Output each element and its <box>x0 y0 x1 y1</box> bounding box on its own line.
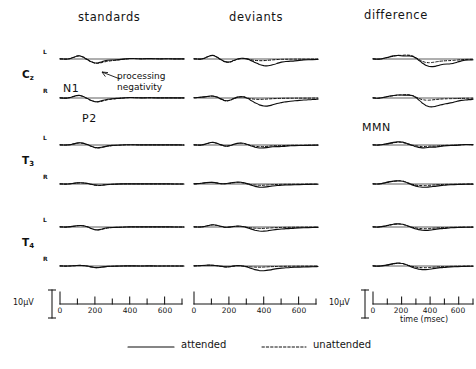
waveform-trace-attended <box>60 95 184 101</box>
waveform-trace-unattended <box>373 95 473 101</box>
waveform-panel <box>60 183 184 186</box>
waveform-panel <box>373 181 473 188</box>
waveform-traces-layer <box>0 0 476 369</box>
waveform-panel <box>194 55 318 65</box>
waveform-trace-unattended <box>60 56 184 63</box>
waveform-panel <box>373 55 473 67</box>
waveform-panel <box>60 56 184 64</box>
waveform-trace-unattended <box>373 142 473 146</box>
waveform-panel <box>194 265 318 271</box>
waveform-panel <box>194 182 318 187</box>
waveform-trace-unattended <box>60 226 184 230</box>
waveform-panel <box>373 224 473 231</box>
waveform-trace-attended <box>60 225 184 229</box>
waveform-panel <box>60 265 184 267</box>
waveform-trace-unattended <box>60 265 184 267</box>
waveform-panel <box>194 142 318 148</box>
waveform-panel <box>60 143 184 148</box>
waveform-panel <box>373 142 473 148</box>
waveform-panel <box>60 95 184 102</box>
waveform-panel <box>60 225 184 230</box>
waveform-trace-unattended <box>60 95 184 101</box>
waveform-trace-attended <box>194 96 318 106</box>
waveform-panel <box>194 225 318 231</box>
waveform-panel <box>194 96 318 106</box>
waveform-panel <box>373 263 473 270</box>
waveform-panel <box>373 95 473 107</box>
erp-figure: standards deviants difference Cz T3 T4 L… <box>0 0 476 369</box>
